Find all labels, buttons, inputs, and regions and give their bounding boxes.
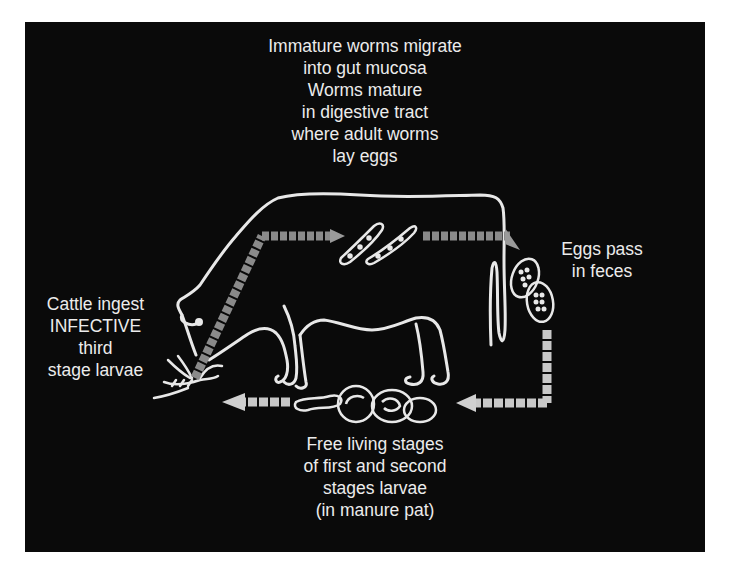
label-line: (in manure pat)	[280, 499, 470, 521]
label-line: stage larvae	[28, 359, 163, 381]
label-line: stages larvae	[280, 477, 470, 499]
label-line: Immature worms migrate	[245, 35, 485, 57]
arrow-manure-to-ingestion-icon	[222, 393, 290, 411]
label-line: where adult worms	[245, 123, 485, 145]
label-line: of first and second	[280, 455, 470, 477]
stage-label-free-living: Free living stages of first and second s…	[280, 433, 470, 521]
stage-label-gut: Immature worms migrate into gut mucosa W…	[245, 35, 485, 167]
adult-worm-icon	[340, 223, 416, 264]
grass-larvae-icon	[154, 356, 222, 398]
label-line: Free living stages	[280, 433, 470, 455]
stage-label-eggs: Eggs pass in feces	[552, 238, 652, 282]
label-line: Cattle ingest	[28, 293, 163, 315]
label-line: Eggs pass	[552, 238, 652, 260]
label-line: into gut mucosa	[245, 57, 485, 79]
egg-icon	[506, 255, 556, 324]
flow-arrows	[195, 228, 547, 412]
free-living-larvae-icon	[295, 386, 436, 422]
label-line: in feces	[552, 260, 652, 282]
label-line: Worms mature	[245, 79, 485, 101]
label-line: lay eggs	[245, 145, 485, 167]
arrow-eggs-to-manure-icon	[456, 330, 547, 412]
label-line: in digestive tract	[245, 101, 485, 123]
cow-outline-icon	[178, 193, 505, 388]
label-line: INFECTIVE	[28, 315, 163, 337]
stage-label-ingestion: Cattle ingest INFECTIVE third stage larv…	[28, 293, 163, 381]
label-line: third	[28, 337, 163, 359]
